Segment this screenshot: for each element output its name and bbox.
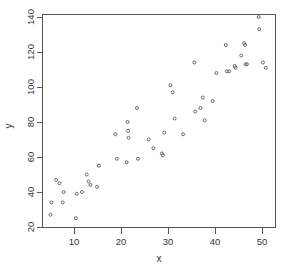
canvas-background — [0, 0, 293, 279]
y-tick-label: 140 — [25, 9, 36, 25]
x-tick-label: 50 — [257, 236, 268, 247]
scatter-plot-screenshot: 20406080100120140 1020304050 y x — [0, 0, 293, 279]
y-tick-label: 20 — [25, 222, 36, 233]
y-tick-label: 60 — [25, 152, 36, 163]
scatter-plot-svg: 20406080100120140 1020304050 y x — [0, 0, 293, 279]
x-tick-label: 20 — [116, 236, 127, 247]
y-tick-label: 80 — [25, 117, 36, 128]
x-axis-title: x — [157, 253, 162, 264]
x-tick-label: 40 — [210, 236, 221, 247]
y-tick-label: 40 — [25, 187, 36, 198]
y-axis-title: y — [3, 124, 14, 129]
y-tick-label: 120 — [25, 44, 36, 60]
y-tick-label: 100 — [25, 79, 36, 95]
x-tick-label: 30 — [163, 236, 174, 247]
x-tick-label: 10 — [69, 236, 80, 247]
